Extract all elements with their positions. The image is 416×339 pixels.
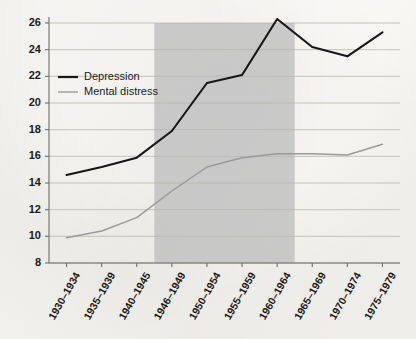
- x-tick-label: 1946–1949: [151, 270, 188, 322]
- line-chart: 8101214161820222426 1930–19341935–193919…: [0, 0, 416, 339]
- y-tick-label: 10: [29, 229, 41, 241]
- y-tick-label: 24: [29, 43, 42, 55]
- x-tick-label: 1965–1969: [291, 270, 328, 322]
- recession-shaded-band: [154, 23, 294, 263]
- x-axis-tick-labels: 1930–19341935–19391940–19451946–19491950…: [46, 263, 399, 322]
- x-tick-label: 1935–1939: [81, 270, 118, 322]
- x-tick-label: 1960–1964: [256, 270, 293, 322]
- legend-label-depression: Depression: [84, 70, 140, 82]
- chart-canvas: 8101214161820222426 1930–19341935–193919…: [0, 0, 416, 339]
- shaded-band-group: [154, 23, 294, 263]
- y-tick-label: 20: [29, 96, 41, 108]
- x-tick-label: 1930–1934: [46, 270, 83, 322]
- x-tick-label: 1955–1959: [221, 270, 258, 322]
- x-tick-label: 1970–1974: [326, 270, 363, 322]
- y-tick-label: 16: [29, 149, 41, 161]
- y-tick-label: 14: [29, 176, 42, 188]
- legend-label-mental-distress: Mental distress: [84, 85, 158, 97]
- y-axis-tick-labels: 8101214161820222426: [29, 16, 42, 268]
- y-tick-label: 12: [29, 203, 41, 215]
- x-tick-label: 1940–1945: [116, 270, 153, 322]
- y-tick-label: 8: [35, 256, 41, 268]
- y-tick-label: 26: [29, 16, 41, 28]
- x-tick-label: 1975–1979: [361, 270, 398, 322]
- y-tick-label: 18: [29, 123, 41, 135]
- chart-legend: Depression Mental distress: [58, 70, 158, 97]
- y-tick-label: 22: [29, 69, 41, 81]
- x-tick-label: 1950–1954: [186, 270, 223, 322]
